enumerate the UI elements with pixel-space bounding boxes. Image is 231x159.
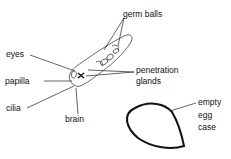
label-brain: brain — [65, 115, 84, 124]
label-egg: egg — [198, 111, 212, 120]
label-case: case — [198, 123, 216, 132]
label-eyes: eyes — [6, 50, 24, 59]
diagram-drawing — [0, 0, 231, 159]
label-germ-balls: germ balls — [123, 10, 162, 19]
label-empty: empty — [198, 98, 221, 107]
label-cilia: cilia — [6, 104, 21, 113]
miracidium-diagram: germ balls eyes papilla cilia brain pene… — [0, 0, 231, 159]
miracidium-body — [69, 35, 132, 87]
label-glands: glands — [136, 77, 161, 86]
eye-spot-icon — [78, 73, 84, 78]
egg-case — [127, 104, 184, 148]
label-papilla: papilla — [5, 77, 30, 86]
label-penetration: penetration — [136, 66, 179, 75]
